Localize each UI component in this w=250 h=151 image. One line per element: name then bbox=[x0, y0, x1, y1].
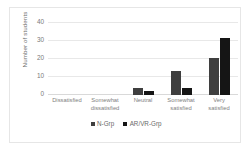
bar bbox=[182, 88, 192, 95]
legend-item[interactable]: AR/VR-Grp bbox=[123, 120, 161, 127]
x-axis-category-labels: DissatisfiedSomewhatdissatisfiedNeutralS… bbox=[48, 97, 238, 113]
x-tick-label: Somewhatsatisfied bbox=[162, 97, 200, 113]
bars-layer bbox=[48, 22, 238, 95]
bar-group bbox=[162, 22, 200, 95]
legend-label: AR/VR-Grp bbox=[130, 120, 162, 127]
legend-swatch-icon bbox=[123, 122, 127, 126]
bar bbox=[144, 91, 154, 95]
plot-area bbox=[48, 22, 238, 95]
bar bbox=[133, 88, 143, 95]
bar bbox=[171, 71, 181, 95]
legend-label: N-Grp bbox=[97, 120, 114, 127]
y-tick-label: 0 bbox=[28, 91, 44, 97]
bar-group bbox=[200, 22, 238, 95]
y-tick-label: 40 bbox=[28, 19, 44, 25]
y-tick-label: 10 bbox=[28, 73, 44, 79]
bar bbox=[220, 38, 230, 95]
y-tick-label: 30 bbox=[28, 37, 44, 43]
legend-item[interactable]: N-Grp bbox=[91, 120, 115, 127]
y-tick-label: 20 bbox=[28, 55, 44, 61]
x-tick-label: Somewhatdissatisfied bbox=[86, 97, 124, 113]
x-tick-label: Dissatisfied bbox=[48, 97, 86, 113]
bar-group bbox=[86, 22, 124, 95]
x-tick-label: Verysatisfied bbox=[200, 97, 238, 113]
bar-chart: Number of students 40 30 20 10 0 Dissati… bbox=[9, 7, 241, 143]
bar bbox=[209, 58, 219, 95]
x-tick-label: Neutral bbox=[124, 97, 162, 113]
bar-group bbox=[124, 22, 162, 95]
chart-legend: N-GrpAR/VR-Grp bbox=[10, 120, 242, 127]
legend-swatch-icon bbox=[91, 122, 95, 126]
bar-group bbox=[48, 22, 86, 95]
